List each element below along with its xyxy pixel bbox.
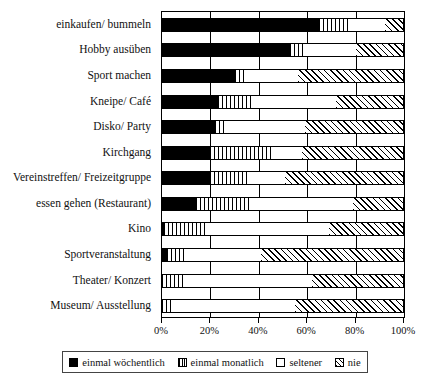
x-axis-tick — [258, 318, 259, 323]
bar-segment-never — [356, 43, 404, 57]
stacked-bar — [162, 171, 404, 185]
bar-segment-monthly — [319, 18, 348, 32]
stacked-bar — [162, 274, 404, 288]
stacked-bar — [162, 18, 404, 32]
legend-swatch-never-icon — [335, 358, 344, 367]
bar-segment-monthly — [235, 69, 245, 83]
bar-segment-never — [295, 299, 404, 313]
legend-item-never[interactable]: nie — [335, 357, 361, 368]
y-axis-label: Sport machen — [87, 68, 151, 82]
chart-legend: einmal wöchentlicheinmal monatlichselten… — [62, 351, 368, 373]
y-axis-labels: einkaufen/ bummelnHobby ausübenSport mac… — [0, 11, 156, 318]
bar-segment-never — [329, 222, 404, 236]
x-axis-tick — [161, 318, 162, 323]
bar-row — [162, 299, 404, 313]
bar-segment-seldom — [172, 299, 295, 313]
x-axis-tick-label: 0% — [154, 324, 168, 337]
stacked-bar — [162, 299, 404, 313]
bar-row — [162, 274, 404, 288]
bar-segment-weekly — [162, 69, 235, 83]
bar-segment-seldom — [305, 43, 356, 57]
bar-segment-seldom — [184, 274, 312, 288]
bar-row — [162, 146, 404, 160]
legend-item-weekly[interactable]: einmal wöchentlich — [69, 357, 165, 368]
x-axis-tick-label: 40% — [248, 324, 267, 337]
bar-row — [162, 120, 404, 134]
plot-area — [161, 11, 405, 318]
bar-segment-monthly — [210, 146, 271, 160]
bar-segment-monthly — [162, 274, 184, 288]
x-axis-tick — [209, 318, 210, 323]
legend-swatch-seldom-icon — [276, 358, 285, 367]
x-axis-tick-label: 60% — [297, 324, 316, 337]
x-axis-tick-label: 20% — [200, 324, 219, 337]
legend-item-seldom[interactable]: seltener — [276, 357, 322, 368]
bar-row — [162, 222, 404, 236]
bar-segment-seldom — [254, 95, 336, 109]
y-axis-label: Museum/ Ausstellung — [50, 298, 151, 312]
y-axis-label: Vereinstreffen/ Freizeitgruppe — [13, 170, 151, 184]
x-axis-tick — [306, 318, 307, 323]
stacked-bar — [162, 43, 404, 57]
bar-segment-seldom — [184, 248, 261, 262]
legend-item-monthly[interactable]: einmal monatlich — [178, 357, 264, 368]
y-axis-label: einkaufen/ bummeln — [56, 17, 151, 31]
legend-swatch-monthly-icon — [178, 358, 187, 367]
bar-segment-weekly — [162, 95, 218, 109]
stacked-bar — [162, 146, 404, 160]
bar-segment-seldom — [271, 146, 302, 160]
bar-segment-never — [385, 18, 404, 32]
bar-segment-seldom — [244, 69, 297, 83]
bar-segment-never — [285, 171, 404, 185]
y-axis-label: Hobby ausüben — [79, 42, 151, 56]
bar-segment-monthly — [218, 95, 254, 109]
bar-segment-weekly — [162, 43, 290, 57]
bar-segment-seldom — [247, 171, 286, 185]
bar-segment-monthly — [215, 120, 227, 134]
bar-segment-weekly — [162, 120, 215, 134]
bar-segment-monthly — [167, 248, 184, 262]
stacked-bar — [162, 69, 404, 83]
bar-segment-monthly — [196, 197, 252, 211]
bar-row — [162, 171, 404, 185]
bar-segment-seldom — [348, 18, 384, 32]
bar-row — [162, 248, 404, 262]
bar-segment-never — [261, 248, 404, 262]
stacked-bar — [162, 222, 404, 236]
bar-segment-weekly — [162, 171, 210, 185]
stacked-bar — [162, 95, 404, 109]
stacked-bar-chart: einkaufen/ bummelnHobby ausübenSport mac… — [0, 0, 430, 382]
y-axis-label: Kirchgang — [102, 145, 151, 159]
bar-segment-weekly — [162, 146, 210, 160]
x-axis-tick-label: 100% — [391, 324, 416, 337]
bar-segment-never — [298, 69, 404, 83]
legend-swatch-weekly-icon — [69, 358, 78, 367]
bar-segment-never — [305, 120, 404, 134]
bar-segment-monthly — [210, 171, 246, 185]
y-axis-label: essen gehen (Restaurant) — [36, 196, 151, 210]
x-axis-tick — [403, 318, 404, 323]
bar-segment-seldom — [227, 120, 304, 134]
y-axis-label: Kneipe/ Café — [90, 94, 151, 108]
x-axis-tick-label: 80% — [345, 324, 364, 337]
stacked-bar — [162, 120, 404, 134]
y-axis-label: Disko/ Party — [93, 119, 151, 133]
bar-row — [162, 95, 404, 109]
x-axis-labels: 0%20%40%60%80%100% — [161, 324, 405, 338]
bar-segment-weekly — [162, 197, 196, 211]
bar-segment-never — [353, 197, 404, 211]
bar-segment-never — [336, 95, 404, 109]
bar-segment-monthly — [290, 43, 305, 57]
bar-segment-monthly — [164, 222, 205, 236]
y-axis-label: Sportveranstaltung — [64, 247, 151, 261]
bar-segment-never — [312, 274, 404, 288]
bar-segment-seldom — [252, 197, 354, 211]
stacked-bar — [162, 197, 404, 211]
stacked-bar — [162, 248, 404, 262]
bar-segment-monthly — [162, 299, 172, 313]
y-axis-label: Kino — [128, 221, 151, 235]
bar-row — [162, 43, 404, 57]
y-axis-label: Theater/ Konzert — [73, 273, 151, 287]
bar-row — [162, 69, 404, 83]
legend-label: einmal wöchentlich — [82, 357, 165, 368]
